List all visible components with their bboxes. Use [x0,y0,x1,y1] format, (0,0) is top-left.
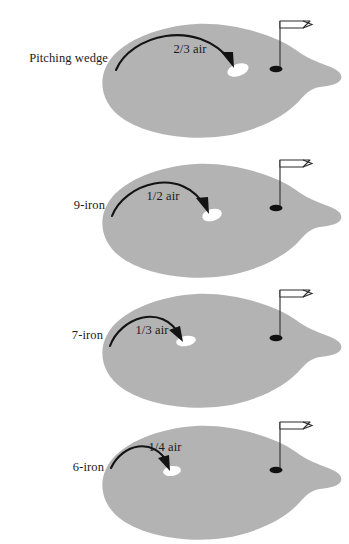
putting-green-shape [102,426,341,540]
putting-green-shape [102,294,341,408]
panel-9-iron: 9-iron 1/2 air [0,138,349,274]
club-label: Pitching wedge [29,51,108,65]
putting-green-shape [102,24,341,138]
panel-7-iron: 7-iron 1/3 air [0,268,349,404]
putting-green-shape [102,164,341,278]
hole-marker [270,205,283,211]
club-label: 9-iron [74,198,106,212]
club-label: 6-iron [73,460,105,474]
air-fraction-label: 1/3 air [136,323,170,337]
hole-marker [270,335,283,341]
golf-shot-diagram: Pitching wedge 2/3 air 9-iron 1/2 air [0,0,349,544]
air-fraction-label: 2/3 air [174,42,208,56]
hole-marker [270,467,283,473]
hole-marker [270,66,283,72]
panel-6-iron: 6-iron 1/4 air [0,400,349,536]
air-fraction-label: 1/4 air [149,440,183,454]
air-fraction-label: 1/2 air [147,189,181,203]
panel-pitching-wedge: Pitching wedge 2/3 air [0,8,349,144]
club-label: 7-iron [72,328,104,342]
